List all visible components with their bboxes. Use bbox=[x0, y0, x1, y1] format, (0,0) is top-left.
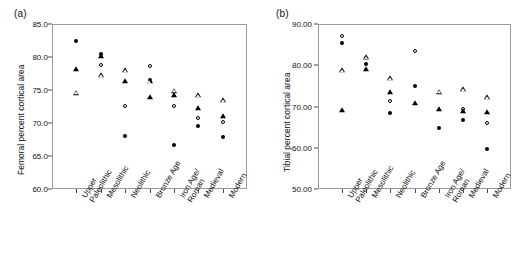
data-point-filled-triangle bbox=[387, 90, 393, 95]
y-axis-tick-mark bbox=[48, 90, 52, 91]
x-axis-tick-mark bbox=[487, 189, 488, 193]
data-point-filled-circle bbox=[74, 39, 78, 43]
y-axis-tick-mark bbox=[48, 123, 52, 124]
data-point-filled-triangle bbox=[363, 66, 369, 71]
y-axis-tick-mark bbox=[48, 57, 52, 58]
data-point-open-circle bbox=[485, 121, 489, 125]
data-point-open-triangle bbox=[339, 67, 345, 72]
data-point-filled-triangle bbox=[412, 100, 418, 105]
figure-two-panel-scatter: (a) Femoral percent cortical area 60.065… bbox=[0, 0, 523, 260]
y-axis-tick-mark bbox=[48, 156, 52, 157]
data-point-open-triangle bbox=[195, 93, 201, 98]
data-point-open-circle bbox=[172, 104, 176, 108]
x-axis-tick-mark bbox=[174, 189, 175, 193]
x-axis-tick-mark bbox=[150, 189, 151, 193]
y-axis-tick-mark bbox=[314, 189, 318, 190]
x-axis-tick-mark bbox=[342, 189, 343, 193]
data-point-filled-triangle bbox=[484, 109, 490, 114]
data-point-filled-triangle bbox=[220, 113, 226, 118]
data-point-filled-circle bbox=[437, 126, 441, 130]
data-point-open-triangle bbox=[147, 79, 153, 84]
panel-a: (a) Femoral percent cortical area 60.065… bbox=[0, 0, 261, 260]
panel-b-y-axis-label: Tibial percent cortical area bbox=[282, 73, 292, 172]
panel-a-plot-area bbox=[52, 24, 247, 189]
x-axis-tick-mark bbox=[101, 189, 102, 193]
data-point-open-triangle bbox=[98, 72, 104, 77]
data-point-open-circle bbox=[148, 64, 152, 68]
y-axis-tick-mark bbox=[314, 106, 318, 107]
data-point-filled-triangle bbox=[122, 78, 128, 83]
y-axis-tick-label: 60.0 bbox=[22, 185, 48, 194]
x-axis-tick-mark bbox=[439, 189, 440, 193]
data-point-filled-circle bbox=[196, 124, 200, 128]
x-axis-tick-mark bbox=[390, 189, 391, 193]
data-point-filled-triangle bbox=[195, 105, 201, 110]
y-axis-tick-label: 80.0 bbox=[22, 53, 48, 62]
data-point-filled-circle bbox=[340, 41, 344, 45]
data-point-open-circle bbox=[221, 120, 225, 124]
y-axis-tick-label: 70.0 bbox=[22, 119, 48, 128]
y-axis-tick-label: 65.0 bbox=[22, 152, 48, 161]
data-point-open-triangle bbox=[387, 76, 393, 81]
data-point-open-circle bbox=[388, 99, 392, 103]
data-point-filled-circle bbox=[485, 147, 489, 151]
y-axis-tick-label: 70.00 bbox=[278, 102, 312, 111]
data-point-filled-triangle bbox=[73, 66, 79, 71]
data-point-open-triangle bbox=[171, 88, 177, 93]
x-axis-tick-mark bbox=[415, 189, 416, 193]
data-point-filled-circle bbox=[413, 84, 417, 88]
y-axis-tick-mark bbox=[48, 24, 52, 25]
data-point-open-triangle bbox=[363, 55, 369, 60]
y-axis-tick-label: 90.00 bbox=[278, 20, 312, 29]
panel-a-label: (a) bbox=[14, 8, 27, 19]
y-axis-tick-label: 85.0 bbox=[22, 20, 48, 29]
data-point-open-triangle bbox=[436, 89, 442, 94]
x-axis-tick-mark bbox=[366, 189, 367, 193]
data-point-filled-circle bbox=[388, 111, 392, 115]
x-axis-tick-mark bbox=[76, 189, 77, 193]
data-point-open-circle bbox=[413, 49, 417, 53]
data-point-open-triangle bbox=[73, 90, 79, 95]
data-point-open-triangle bbox=[220, 97, 226, 102]
y-axis-tick-mark bbox=[48, 189, 52, 190]
y-axis-tick-label: 60.00 bbox=[278, 143, 312, 152]
x-axis-tick-mark bbox=[223, 189, 224, 193]
x-axis-tick-mark bbox=[463, 189, 464, 193]
data-point-filled-circle bbox=[461, 118, 465, 122]
data-point-open-circle bbox=[340, 34, 344, 38]
y-axis-tick-mark bbox=[314, 147, 318, 148]
panel-b: (b) Tibial percent cortical area 50.0060… bbox=[262, 0, 523, 260]
data-point-open-circle bbox=[461, 107, 465, 111]
data-point-filled-circle bbox=[172, 143, 176, 147]
data-point-filled-triangle bbox=[436, 106, 442, 111]
data-point-filled-triangle bbox=[147, 94, 153, 99]
panel-b-label: (b) bbox=[276, 8, 289, 19]
data-point-open-triangle bbox=[122, 67, 128, 72]
data-point-filled-triangle bbox=[98, 53, 104, 58]
data-point-filled-circle bbox=[221, 135, 225, 139]
x-axis-tick-mark bbox=[198, 189, 199, 193]
data-point-open-circle bbox=[123, 104, 127, 108]
y-axis-tick-label: 80.00 bbox=[278, 61, 312, 70]
data-point-filled-triangle bbox=[339, 107, 345, 112]
y-axis-tick-label: 50.00 bbox=[278, 185, 312, 194]
y-axis-tick-mark bbox=[314, 65, 318, 66]
data-point-open-circle bbox=[99, 63, 103, 67]
x-axis-tick-mark bbox=[125, 189, 126, 193]
y-axis-tick-mark bbox=[314, 24, 318, 25]
data-point-filled-circle bbox=[123, 134, 127, 138]
y-axis-tick-label: 75.0 bbox=[22, 86, 48, 95]
data-point-open-triangle bbox=[460, 86, 466, 91]
data-point-open-triangle bbox=[484, 95, 490, 100]
data-point-open-circle bbox=[196, 116, 200, 120]
